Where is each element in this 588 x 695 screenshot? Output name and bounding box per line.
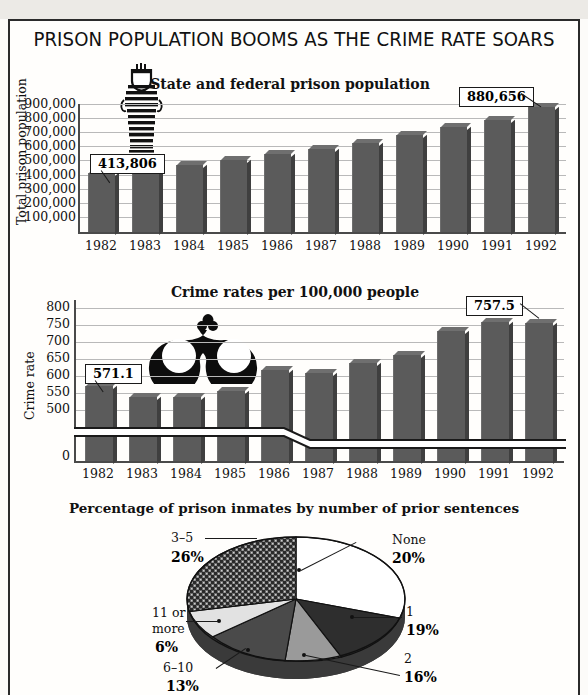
pie-label-three-five: 3–5 [171, 530, 193, 545]
chart2-ytick: 750 [4, 319, 70, 329]
pie-leader-three-five [205, 538, 257, 539]
chart2-ytick: 650 [4, 353, 70, 363]
chart1-ytick: 900,000 [4, 99, 76, 109]
pie-pct-none: 20% [392, 550, 425, 566]
chart2-ytick: 800 [4, 302, 70, 312]
pie-leader-one [354, 617, 402, 618]
chart1-ytick: 300,000 [4, 184, 76, 194]
chart1-ytick: 200,000 [4, 198, 76, 208]
pie-label-one: 1 [406, 604, 414, 619]
pie-pct-six-ten: 13% [166, 678, 199, 694]
pie-pct-one: 19% [406, 622, 439, 638]
pie-pct-eleven-more: 6% [155, 639, 178, 655]
chart1-bar-1987 [308, 149, 335, 232]
chart1-xtick: 1992 [513, 238, 569, 253]
page-title: PRISON POPULATION BOOMS AS THE CRIME RAT… [21, 28, 568, 51]
chart1-ytick: 100,000 [4, 212, 76, 222]
chart1-bar-1982 [88, 173, 115, 232]
chart1-ytick: 500,000 [4, 155, 76, 165]
chart1-bar-1984 [176, 165, 203, 232]
chart1-title: State and federal prison population [150, 76, 430, 92]
prisoner-figure-icon [112, 62, 172, 157]
chart1-bar-1985 [220, 160, 247, 232]
pie-label-six-ten: 6–10 [163, 660, 193, 675]
pie-label-eleven-more-a: 11 or [152, 605, 185, 620]
chart2-title: Crime rates per 100,000 people [150, 284, 440, 300]
chart1-bar-1988 [352, 143, 379, 232]
chart1-x-axis [78, 232, 566, 234]
pie-pct-two: 16% [404, 669, 437, 685]
chart2-ytick: 550 [4, 387, 70, 397]
chart2-callout-1992: 757.5 [466, 296, 523, 316]
chart1-bar-1989 [396, 135, 423, 232]
chart2-axis-break [74, 424, 566, 450]
pie-label-eleven-more-b: more [152, 621, 185, 636]
scanned-page: PRISON POPULATION BOOMS AS THE CRIME RAT… [0, 0, 588, 695]
chart2-ytick: 600 [4, 370, 70, 380]
chart1-ytick: 800,000 [4, 113, 76, 123]
chart1-bar-1986 [264, 154, 291, 232]
chart1-y-axis [78, 104, 80, 233]
chart1-ytick: 600,000 [4, 141, 76, 151]
chart2-ytick: 700 [4, 336, 70, 346]
pie-label-none: None [392, 532, 426, 547]
pie-pct-three-five: 26% [171, 549, 204, 565]
handcuffs-icon [148, 312, 266, 384]
page-top-margin [0, 0, 588, 19]
chart1-callout-1992: 880,656 [459, 87, 534, 107]
chart1-ytick: 400,000 [4, 170, 76, 180]
chart2-x-axis [74, 461, 564, 463]
chart2-xtick: 1992 [510, 466, 566, 481]
chart1-bar-1991 [484, 120, 511, 232]
chart1-bar-1990 [440, 127, 467, 232]
chart2-ytick-zero: 0 [4, 451, 70, 461]
chart1-bar-1983 [132, 171, 159, 232]
chart2-ytick: 500 [4, 404, 70, 414]
pie-label-two: 2 [404, 651, 412, 666]
chart1-bar-1992 [528, 107, 555, 232]
chart1-ytick: 700,000 [4, 127, 76, 137]
chart-prior-sentences: None 20% 1 19% 2 16% 6–10 13% 11 or more… [0, 505, 588, 695]
pie-leader-eleven-more [186, 621, 218, 622]
